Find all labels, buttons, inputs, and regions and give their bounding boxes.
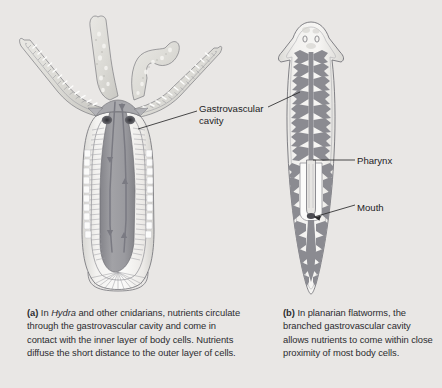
caption-b-letter: (b) bbox=[283, 307, 295, 318]
planarian-mouth bbox=[307, 213, 315, 219]
label-mouth: Mouth bbox=[357, 202, 384, 214]
caption-panel-b: (b) In planarian flatworms, the branched… bbox=[283, 306, 435, 360]
caption-b-text: In planarian flatworms, the branched gas… bbox=[283, 307, 433, 358]
planarian-anterior-trunk bbox=[309, 52, 314, 165]
hydra-mouth-left bbox=[102, 116, 112, 124]
label-pharynx: Pharynx bbox=[357, 155, 392, 167]
planarian-pharynx bbox=[307, 160, 316, 215]
label-gastrovascular-line2: cavity bbox=[199, 115, 224, 126]
figure-root: Gastrovascularcavity Pharynx Mouth (a) I… bbox=[0, 0, 442, 388]
hydra-gastrovascular-cavity bbox=[100, 112, 135, 272]
label-gastrovascular-cavity: Gastrovascularcavity bbox=[199, 103, 264, 126]
caption-a-letter: (a) bbox=[27, 307, 38, 318]
hydra-mouth-right bbox=[125, 116, 135, 124]
caption-panel-a: (a) In Hydra and other cnidarians, nutri… bbox=[27, 306, 245, 360]
caption-a-part1: In bbox=[38, 307, 51, 318]
caption-a-italic-term: Hydra bbox=[51, 307, 76, 318]
caption-area: (a) In Hydra and other cnidarians, nutri… bbox=[0, 306, 442, 388]
label-gastrovascular-line1: Gastrovascular bbox=[199, 103, 264, 114]
